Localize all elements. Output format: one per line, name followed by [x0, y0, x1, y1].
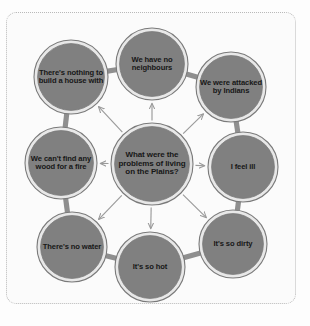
node-no-wood[interactable]	[29, 131, 94, 196]
node-attacked[interactable]	[200, 56, 263, 119]
node-no-water[interactable]	[41, 216, 104, 279]
node-no-neighbours[interactable]	[120, 32, 185, 97]
diagram-canvas	[0, 0, 310, 326]
node-so-hot[interactable]	[119, 236, 182, 299]
arrow-center-to-attacked	[183, 114, 203, 134]
node-feel-ill[interactable]	[212, 136, 275, 199]
center-node-center[interactable]	[115, 127, 190, 202]
arrow-center-to-no-water	[99, 195, 122, 219]
node-circles	[25, 28, 278, 302]
diagram-root: We have no neighboursWe were attacked by…	[0, 0, 310, 326]
node-so-dirty[interactable]	[203, 214, 264, 275]
node-nothing-build[interactable]	[38, 44, 105, 111]
arrow-center-to-nothing-build	[99, 107, 123, 133]
arrow-center-to-so-dirty	[183, 195, 206, 218]
